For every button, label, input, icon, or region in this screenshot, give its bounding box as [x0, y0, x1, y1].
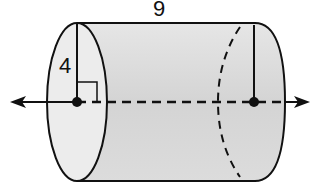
right-center-point — [249, 97, 259, 107]
length-label: 9 — [153, 0, 165, 20]
cylinder-diagram: 9 4 — [0, 0, 317, 185]
cylinder-figure — [0, 0, 317, 185]
radius-label: 4 — [59, 55, 71, 77]
left-center-point — [72, 97, 82, 107]
